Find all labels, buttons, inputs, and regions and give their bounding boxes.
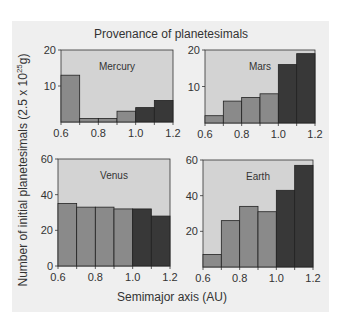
x-tick-label: 0.6: [195, 272, 210, 284]
y-tick-label: 60: [186, 154, 198, 166]
x-tick-label: 0.8: [234, 128, 249, 140]
panel-mars: 0.60.81.01.21020Mars: [188, 44, 323, 140]
panel-title: Earth: [246, 171, 270, 182]
histogram-bar: [242, 97, 260, 123]
histogram-bar: [151, 216, 170, 266]
x-tick-label: 0.8: [232, 272, 247, 284]
histogram-bar: [221, 221, 239, 267]
histogram-bar: [295, 165, 313, 267]
histogram-bar: [61, 75, 80, 122]
x-tick-label: 1.2: [305, 272, 320, 284]
panel-title: Mercury: [99, 61, 135, 72]
x-tick-label: 1.0: [128, 127, 143, 139]
x-tick-label: 0.6: [50, 271, 65, 283]
x-tick-label: 1.0: [125, 271, 140, 283]
x-tick-label: 0.8: [88, 271, 103, 283]
histogram-bar: [276, 190, 294, 267]
histogram-bar: [117, 111, 136, 122]
histogram-bar: [114, 209, 133, 266]
x-tick-label: 1.0: [269, 272, 284, 284]
histogram-bar: [77, 207, 96, 266]
histogram-bar: [205, 116, 223, 123]
y-tick-label: 0: [47, 260, 53, 272]
x-axis-label: Semimajor axis (AU): [117, 290, 227, 304]
panel-mercury: 0.60.81.01.21020Mercury: [44, 44, 181, 139]
histogram-grid: Provenance of planetesimals Semimajor ax…: [0, 0, 343, 327]
histogram-bar: [154, 100, 173, 122]
y-axis-label: Number of initial planetesimals (2.5 x 1…: [15, 53, 30, 286]
panel-venus: 0.60.81.01.20204060Venus: [41, 153, 178, 283]
y-tick-label: 20: [44, 44, 56, 56]
panel-title: Venus: [100, 170, 128, 181]
panel-earth: 0.60.81.01.2204060Earth: [186, 154, 321, 284]
figure-title: Provenance of planetesimals: [94, 27, 248, 41]
y-tick-label: 10: [188, 81, 200, 93]
histogram-bar: [297, 54, 315, 123]
x-tick-label: 0.6: [197, 128, 212, 140]
x-tick-label: 1.2: [162, 271, 177, 283]
histogram-bar: [98, 118, 117, 122]
x-tick-label: 1.2: [307, 128, 322, 140]
histogram-bar: [240, 206, 258, 267]
histogram-bar: [260, 94, 278, 123]
histogram-bar: [95, 207, 114, 266]
panel-title: Mars: [249, 61, 271, 72]
histogram-bar: [136, 108, 155, 122]
y-tick-label: 10: [44, 80, 56, 92]
y-tick-label: 60: [41, 153, 53, 165]
x-tick-label: 0.8: [91, 127, 106, 139]
histogram-bar: [258, 212, 276, 267]
histogram-bar: [278, 65, 296, 123]
y-tick-label: 40: [41, 189, 53, 201]
y-tick-label: 20: [186, 225, 198, 237]
histogram-bar: [223, 101, 241, 123]
histogram-bar: [133, 209, 152, 266]
x-tick-label: 0.6: [53, 127, 68, 139]
histogram-bar: [203, 255, 221, 267]
y-tick-label: 20: [41, 224, 53, 236]
x-tick-label: 1.0: [271, 128, 286, 140]
histogram-bar: [58, 204, 77, 266]
histogram-bar: [80, 118, 99, 122]
y-tick-label: 40: [186, 190, 198, 202]
x-tick-label: 1.2: [165, 127, 180, 139]
y-tick-label: 20: [188, 44, 200, 56]
